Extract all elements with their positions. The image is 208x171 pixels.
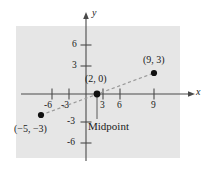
y-tick-label-3: 3	[72, 61, 77, 71]
point-label-2-0: (2, 0)	[85, 74, 107, 84]
midpoint-caption: Midpoint	[88, 121, 129, 132]
plot-graphics	[0, 0, 208, 171]
x-axis-label: x	[196, 87, 200, 97]
point-minus5-minus3	[38, 112, 44, 118]
y-tick-label-6: 6	[72, 40, 77, 50]
x-axis	[21, 91, 195, 97]
point-9-3	[151, 70, 157, 76]
y-tick-label-minus3: -3	[67, 117, 75, 127]
y-axis	[83, 12, 89, 161]
x-tick-label-6: 6	[117, 101, 122, 111]
point-label-minus5-minus3: (−5, −3)	[14, 124, 47, 134]
y-tick-label-minus6: -6	[67, 138, 75, 148]
x-tick-label-3: 3	[100, 101, 105, 111]
x-tick-label-minus6: -6	[44, 101, 52, 111]
point-label-9-3: (9, 3)	[143, 55, 165, 65]
x-tick-label-minus3: -3	[61, 101, 69, 111]
figure-coordinate-plane: y x -6 -3 3 6 9 6 3 -3 -6 (2, 0) (9, 3) …	[0, 0, 208, 171]
y-axis-label: y	[92, 8, 96, 18]
x-tick-label-9: 9	[151, 101, 156, 111]
point-2-0	[94, 91, 101, 98]
